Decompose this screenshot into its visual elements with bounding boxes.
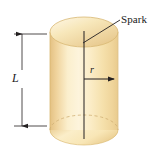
physics-figure-cylinder: Spark L r [0, 0, 162, 154]
radius-label: r [90, 65, 94, 75]
length-label: L [12, 72, 19, 84]
spark-label: Spark [121, 14, 147, 25]
